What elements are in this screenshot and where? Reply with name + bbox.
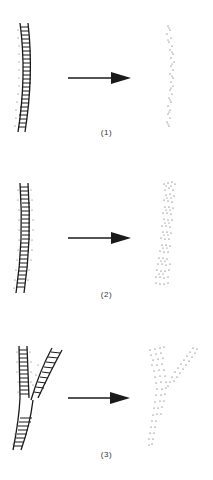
panel-3: (3) xyxy=(0,320,213,480)
right-arrow-icon-2 xyxy=(68,232,131,244)
stipple-band-2 xyxy=(155,180,176,286)
ladder-3-branch xyxy=(31,348,62,400)
ladder-2 xyxy=(16,183,30,293)
panel-1-label: (1) xyxy=(0,128,213,137)
panel-1: (1) xyxy=(0,0,213,160)
stipple-band-1 xyxy=(166,25,174,126)
right-arrow-icon-1 xyxy=(68,72,131,84)
ladder-1-side-dots xyxy=(15,30,20,127)
right-arrow-icon-3 xyxy=(68,392,130,404)
stipple-y-3 xyxy=(148,346,197,445)
panel-2-label: (2) xyxy=(0,290,213,299)
ladder-3-main xyxy=(13,346,33,450)
panel-2: (2) xyxy=(0,160,213,320)
ladder-1 xyxy=(18,23,31,132)
panel-3-label: (3) xyxy=(0,450,213,459)
